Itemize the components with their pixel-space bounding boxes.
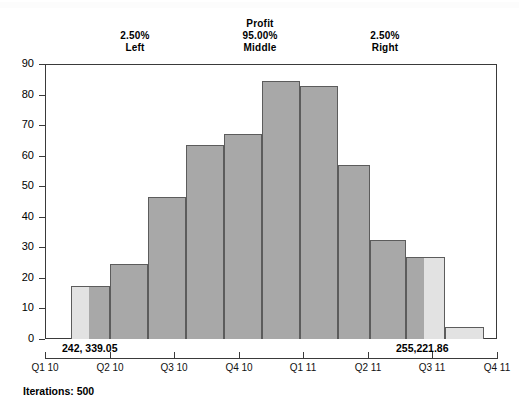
y-axis-tick-mark <box>39 186 45 187</box>
y-axis-tick-label: 80 <box>4 89 34 100</box>
bar-main-segment <box>89 287 109 339</box>
y-axis-tick-label: 20 <box>4 272 34 283</box>
y-axis-tick-label: 40 <box>4 211 34 222</box>
y-axis-tick-mark <box>39 64 45 65</box>
x-axis-tick-label: Q2 10 <box>75 362 145 374</box>
upper-bound-value: 255,221.86 <box>396 342 449 354</box>
chart-title: Profit <box>215 18 305 30</box>
bar-main-segment <box>339 166 369 339</box>
y-axis-tick-mark <box>39 156 45 157</box>
iterations-label: Iterations: 500 <box>23 385 94 397</box>
middle-percent: 95.00% <box>215 30 305 42</box>
bar-tail-segment <box>424 258 444 340</box>
right-tail-label: Right <box>340 42 430 54</box>
right-tail-percent: 2.50% <box>340 30 430 42</box>
bar-main-segment <box>225 135 261 339</box>
histogram-chart: 2.50% Left Profit 95.00% Middle 2.50% Ri… <box>0 0 519 408</box>
bar-main-segment <box>407 258 424 340</box>
bar-main-segment <box>111 265 147 339</box>
y-axis-tick-label: 0 <box>4 333 34 344</box>
x-axis-tick-label: Q1 11 <box>268 362 338 374</box>
histogram-bar <box>370 240 406 339</box>
annotation-right-tail: 2.50% Right <box>340 30 430 54</box>
y-axis-tick-mark <box>39 217 45 218</box>
histogram-bar <box>406 257 445 340</box>
middle-label: Middle <box>215 42 305 54</box>
x-axis-tick-label: Q4 11 <box>462 362 519 374</box>
y-axis-tick-mark <box>39 125 45 126</box>
y-axis-tick-mark <box>39 95 45 96</box>
x-axis-tick-label: Q1 10 <box>10 362 80 374</box>
lower-bound-value: 242, 339.05 <box>62 342 117 354</box>
bar-main-segment <box>301 87 337 339</box>
x-axis-tick-mark <box>497 352 498 359</box>
histogram-bar <box>338 165 370 339</box>
top-edge-artifact <box>0 2 519 8</box>
x-axis-line <box>45 358 497 359</box>
left-tail-label: Left <box>90 42 180 54</box>
annotation-left-tail: 2.50% Left <box>90 30 180 54</box>
histogram-bar <box>262 81 300 339</box>
y-axis-tick-mark <box>39 247 45 248</box>
y-axis-tick-mark <box>39 308 45 309</box>
x-axis-tick-mark <box>174 352 175 359</box>
x-axis-tick-label: Q3 11 <box>397 362 467 374</box>
histogram-bar <box>445 327 484 339</box>
bar-main-segment <box>263 82 299 339</box>
x-axis-tick-mark <box>368 352 369 359</box>
annotation-middle: Profit 95.00% Middle <box>215 18 305 54</box>
histogram-bar <box>224 134 262 339</box>
bar-tail-segment <box>446 328 483 339</box>
x-axis-tick-mark <box>239 352 240 359</box>
y-axis-tick-label: 50 <box>4 180 34 191</box>
bar-main-segment <box>187 146 223 339</box>
bar-tail-segment <box>72 287 89 339</box>
x-axis-tick-mark <box>45 352 46 359</box>
y-axis-tick-label: 70 <box>4 119 34 130</box>
histogram-bar <box>186 145 224 339</box>
x-axis-tick-label: Q3 10 <box>139 362 209 374</box>
left-tail-percent: 2.50% <box>90 30 180 42</box>
bar-main-segment <box>371 241 405 339</box>
histogram-bar <box>110 264 148 339</box>
y-axis-tick-mark <box>39 278 45 279</box>
x-axis-tick-mark <box>303 352 304 359</box>
bars-group <box>46 65 496 339</box>
x-axis-tick-label: Q4 10 <box>204 362 274 374</box>
histogram-bar <box>300 86 338 339</box>
y-axis-tick-label: 30 <box>4 241 34 252</box>
y-axis-tick-mark <box>39 339 45 340</box>
y-axis-tick-label: 90 <box>4 58 34 69</box>
histogram-bar <box>148 197 186 339</box>
y-axis-tick-label: 10 <box>4 302 34 313</box>
y-axis-tick-label: 60 <box>4 150 34 161</box>
histogram-bar <box>71 286 110 339</box>
bar-main-segment <box>149 198 185 339</box>
x-axis-tick-label: Q2 11 <box>333 362 403 374</box>
